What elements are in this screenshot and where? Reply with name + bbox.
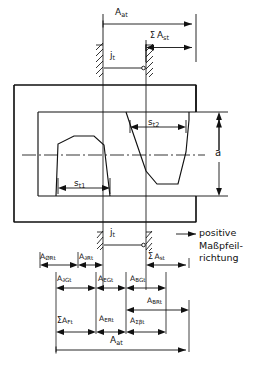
note-line-3: richtung bbox=[199, 252, 243, 265]
label-backlash-jt-top: jt bbox=[110, 51, 115, 60]
label-row2-b: AEGt bbox=[98, 275, 113, 283]
label-row1-mid: A∂Rt bbox=[79, 253, 93, 261]
label-top-overall: Aat bbox=[115, 8, 128, 17]
label-row2-a: A∂Gt bbox=[57, 275, 72, 283]
label-backlash-jt-bottom: jt bbox=[110, 228, 115, 237]
hatch-left-lower bbox=[97, 231, 103, 250]
hatch-right-lower bbox=[146, 231, 152, 251]
note-line-1: positive bbox=[199, 227, 243, 240]
label-row3-right: ABRt bbox=[147, 297, 162, 305]
label-row1-left: AØRt bbox=[40, 253, 56, 261]
hatch-left bbox=[96, 43, 103, 77]
top-dimension-sum-ast bbox=[146, 40, 192, 62]
backlash-jt-bottom bbox=[104, 243, 145, 247]
dimension-bottom-aat bbox=[56, 347, 186, 354]
label-row4-a: ΣAFt bbox=[57, 317, 73, 325]
hub-inner-outline bbox=[38, 112, 196, 196]
note-positive-direction: positive Maßpfeil- richtung bbox=[199, 227, 243, 265]
label-row1-right: Σ Ast bbox=[148, 253, 165, 261]
label-bottom-overall: Aat bbox=[110, 336, 123, 345]
backlash-jt-top bbox=[104, 66, 145, 70]
label-row2-c: ABGt bbox=[130, 275, 145, 283]
dimension-row-3 bbox=[126, 307, 189, 313]
label-st1: st1 bbox=[74, 179, 85, 188]
dimension-row-2 bbox=[56, 285, 166, 291]
note-line-2: Maßpfeil- bbox=[199, 240, 243, 253]
label-row4-c: AΣβt bbox=[130, 317, 144, 325]
label-top-sum-ast: Σ Ast bbox=[150, 31, 169, 40]
technical-drawing-figure: Aat Σ Ast jt st2 st1 a jt positive Maßpf… bbox=[0, 0, 261, 381]
label-st2: st2 bbox=[148, 118, 159, 127]
label-center-distance-a: a bbox=[215, 148, 221, 158]
dimension-a-vertical bbox=[196, 112, 228, 196]
label-row4-b: AERt bbox=[99, 315, 114, 323]
dimension-row-1 bbox=[40, 262, 186, 268]
